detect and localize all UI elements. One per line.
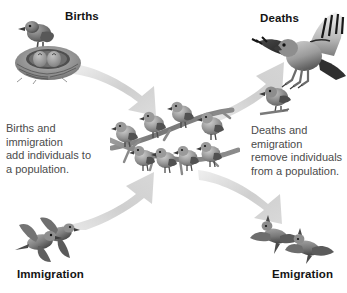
- label-emigration: Emigration: [272, 268, 333, 280]
- bird-lower-2: [151, 148, 177, 173]
- nest-icon: [12, 16, 84, 84]
- caption-right: Deaths and emigration remove individuals…: [251, 124, 347, 178]
- label-deaths: Deaths: [260, 12, 299, 24]
- emigrating-birds-icon: [250, 214, 338, 266]
- label-births: Births: [65, 10, 99, 22]
- bird-upper-3: [167, 102, 194, 128]
- caption-left: Births and immigration add individuals t…: [6, 122, 126, 176]
- population-diagram: Births: [0, 0, 347, 293]
- bird-lower-4: [196, 142, 222, 167]
- population-on-branch-icon: [110, 92, 240, 192]
- immigrating-birds-icon: [12, 216, 92, 264]
- prey-bird-icon: [256, 84, 296, 118]
- label-immigration: Immigration: [17, 268, 84, 280]
